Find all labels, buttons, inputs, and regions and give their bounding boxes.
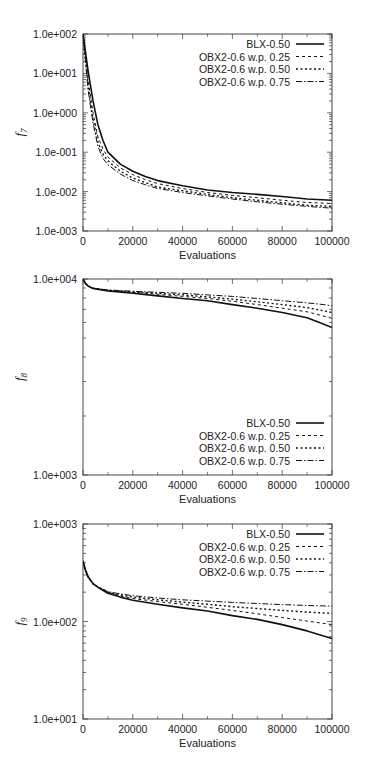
- x-axis-label: Evaluations: [179, 493, 236, 505]
- x-tick-label: 60000: [218, 723, 247, 735]
- x-tick-label: 60000: [218, 479, 247, 491]
- legend-label: OBX2-0.6 w.p. 0.50: [199, 63, 290, 75]
- x-tick-label: 60000: [218, 235, 247, 247]
- y-tick-label: 1.0e+002: [33, 28, 77, 40]
- x-tick-label: 40000: [168, 235, 197, 247]
- x-tick-label: 0: [80, 479, 86, 491]
- y-tick-label: 1.0e+004: [33, 273, 77, 285]
- series-line: [83, 563, 332, 614]
- x-tick-label: 0: [80, 723, 86, 735]
- x-tick-label: 40000: [168, 723, 197, 735]
- x-tick-label: 20000: [118, 723, 147, 735]
- y-axis-label: f7: [12, 128, 29, 137]
- legend-label: OBX2-0.6 w.p. 0.75: [199, 455, 290, 467]
- legend-label: OBX2-0.6 w.p. 0.50: [199, 553, 290, 565]
- x-tick-label: 40000: [168, 479, 197, 491]
- x-tick-label: 0: [80, 235, 86, 247]
- y-tick-label: 1.0e-003: [36, 225, 78, 237]
- series-line: [83, 563, 332, 606]
- legend-label: OBX2-0.6 w.p. 0.25: [199, 51, 290, 63]
- series-line: [83, 279, 332, 313]
- x-tick-label: 20000: [118, 235, 147, 247]
- y-tick-label: 1.0e+001: [33, 713, 77, 725]
- x-axis-label: Evaluations: [179, 737, 236, 749]
- plot-frame: [83, 524, 332, 719]
- y-tick-label: 1.0e+003: [33, 469, 77, 481]
- x-tick-label: 80000: [268, 479, 297, 491]
- legend-label: BLX-0.50: [246, 528, 290, 540]
- y-tick-label: 1.0e+001: [33, 67, 77, 79]
- y-axis-label: f8: [12, 372, 29, 381]
- series-line: [83, 561, 332, 639]
- y-tick-label: 1.0e+003: [33, 518, 77, 530]
- y-tick-label: 1.0e-001: [36, 146, 78, 158]
- chart-f7: 1.0e-0031.0e-0021.0e-0011.0e+0001.0e+001…: [0, 0, 372, 260]
- y-axis-label: f9: [12, 617, 29, 626]
- plot-frame: [83, 279, 332, 475]
- legend-label: OBX2-0.6 w.p. 0.75: [199, 566, 290, 578]
- chart-f7-svg: 1.0e-0031.0e-0021.0e-0011.0e+0001.0e+001…: [0, 0, 372, 260]
- legend-label: OBX2-0.6 w.p. 0.75: [199, 76, 290, 88]
- y-tick-label: 1.0e-002: [36, 186, 78, 198]
- x-axis-label: Evaluations: [179, 249, 236, 260]
- series-line: [83, 563, 332, 625]
- x-tick-label: 80000: [268, 235, 297, 247]
- x-tick-label: 100000: [314, 235, 349, 247]
- x-tick-label: 80000: [268, 723, 297, 735]
- series-line: [83, 279, 332, 306]
- legend-label: OBX2-0.6 w.p. 0.25: [199, 541, 290, 553]
- x-tick-label: 20000: [118, 479, 147, 491]
- legend-label: BLX-0.50: [246, 38, 290, 50]
- legend-label: OBX2-0.6 w.p. 0.50: [199, 442, 290, 454]
- series-line: [83, 279, 332, 328]
- legend-label: OBX2-0.6 w.p. 0.25: [199, 430, 290, 442]
- x-tick-label: 100000: [314, 479, 349, 491]
- y-tick-label: 1.0e+002: [33, 616, 77, 628]
- series-line: [83, 279, 332, 318]
- x-tick-label: 100000: [314, 723, 349, 735]
- legend-label: BLX-0.50: [246, 417, 290, 429]
- y-tick-label: 1.0e+000: [33, 107, 77, 119]
